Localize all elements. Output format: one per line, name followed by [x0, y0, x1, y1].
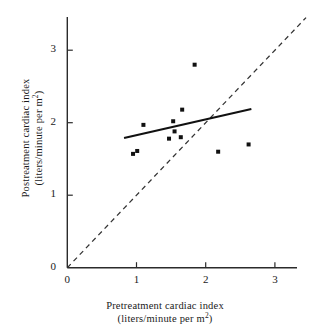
data-point: [167, 137, 171, 141]
y-axis-label-units: (liters/minute per m2): [32, 43, 45, 233]
y-axis-label: Postreatment cardiac index (liters/minut…: [19, 43, 45, 233]
data-points-group: [131, 63, 251, 156]
x-tick-label: 3: [267, 273, 283, 285]
data-point: [216, 150, 220, 154]
scatter-plot-figure: 0123 0123 Pretreatment cardiac index (li…: [0, 0, 330, 336]
x-axis-label-main: Pretreatment cardiac index: [55, 299, 275, 312]
axes-group: [67, 17, 297, 268]
x-axis-label: Pretreatment cardiac index (liters/minut…: [55, 299, 275, 325]
y-tick-label: 0: [45, 260, 61, 272]
data-point: [141, 123, 145, 127]
y-tick-label: 3: [45, 42, 61, 54]
x-tick-label: 2: [198, 273, 214, 285]
x-tick-label: 1: [129, 273, 145, 285]
x-axis-label-units: (liters/minute per m2): [55, 312, 275, 325]
y-axis-ticks: [67, 50, 73, 195]
x-axis-ticks: [137, 262, 275, 268]
data-point: [171, 119, 175, 123]
identity-reference-line: [67, 18, 306, 268]
data-point: [193, 63, 197, 67]
y-axis-label-main: Postreatment cardiac index: [19, 43, 32, 233]
data-point: [173, 129, 177, 133]
y-tick-label: 1: [45, 187, 61, 199]
x-tick-label: 0: [59, 273, 75, 285]
y-tick-label: 2: [45, 115, 61, 127]
data-point: [135, 149, 139, 153]
data-point: [131, 152, 135, 156]
data-point: [247, 142, 251, 146]
data-point: [179, 135, 183, 139]
data-point: [180, 108, 184, 112]
